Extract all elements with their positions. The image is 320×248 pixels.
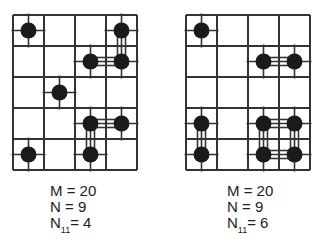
right-caption: M = 20 N = 9 N11= 6 (227, 183, 273, 231)
left-grid-panel (12, 14, 139, 172)
left-caption: M = 20 N = 9 N11= 4 (50, 183, 96, 231)
node-dot (287, 147, 303, 163)
node-dot (256, 116, 272, 132)
m-value-label: M = 20 (50, 183, 96, 199)
node-dot (194, 147, 210, 163)
node-dot (256, 54, 272, 70)
node-dot (194, 116, 210, 132)
node-dot (21, 23, 37, 39)
node-dot (114, 54, 130, 70)
n-value-label: N = 9 (50, 199, 96, 215)
m-value-label: M = 20 (227, 183, 273, 199)
node-dot (83, 116, 99, 132)
node-dot (114, 116, 130, 132)
n11-value-label: N11= 4 (50, 215, 96, 231)
node-dot (52, 85, 68, 101)
node-dot (21, 147, 37, 163)
node-dot (83, 147, 99, 163)
node-dot (83, 54, 99, 70)
node-dot (194, 23, 210, 39)
node-dot (256, 147, 272, 163)
n11-value-label: N11= 6 (227, 215, 273, 231)
node-dot (287, 116, 303, 132)
right-grid-panel (185, 14, 312, 172)
n-value-label: N = 9 (227, 199, 273, 215)
node-dot (287, 54, 303, 70)
node-dot (114, 23, 130, 39)
